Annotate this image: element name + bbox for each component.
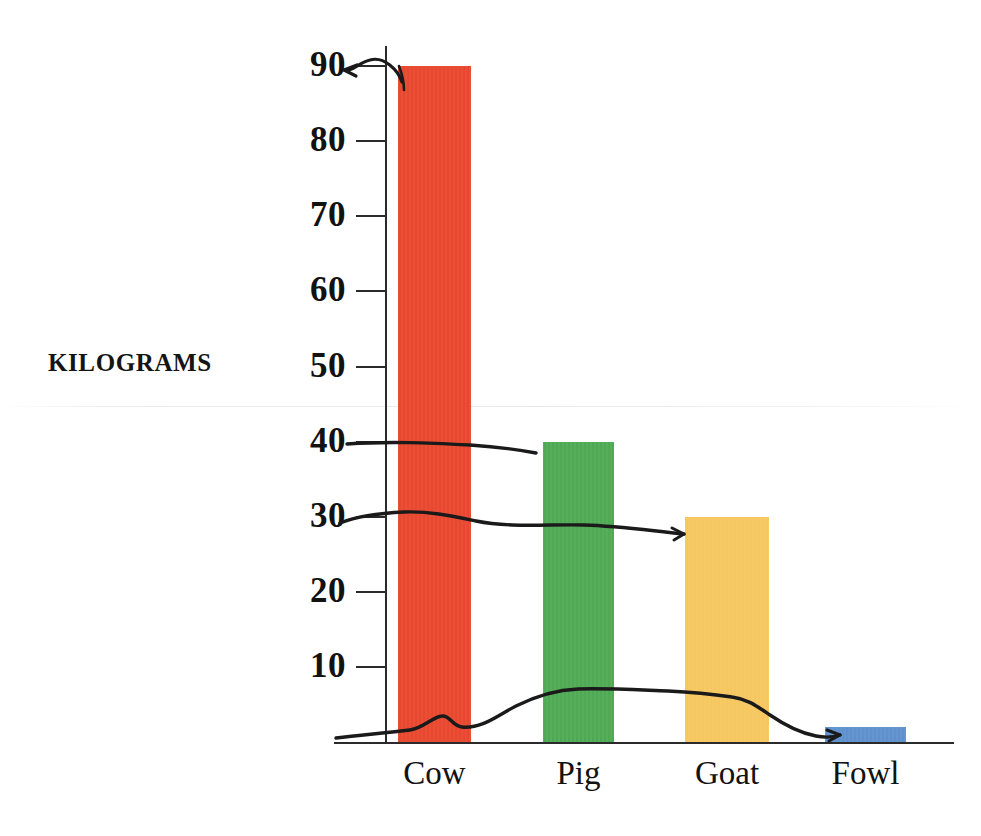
y-axis-tick <box>356 516 385 518</box>
goat-level-arrowhead <box>672 528 684 540</box>
y-axis-tick-label-text: 30 <box>276 498 346 533</box>
y-axis-tick <box>356 215 385 217</box>
y-axis-tick <box>356 591 385 593</box>
y-axis-tick <box>356 65 385 67</box>
y-axis-tick-label: 40 <box>268 423 346 458</box>
y-axis-tick-label: 80 <box>268 122 346 157</box>
y-axis-tick-label-text: 80 <box>276 122 346 157</box>
bar-paper-texture <box>825 727 906 742</box>
category-label-pig: Pig <box>503 753 654 793</box>
y-axis-tick <box>356 366 385 368</box>
bar-paper-texture <box>685 517 769 742</box>
y-axis-tick <box>356 140 385 142</box>
hand-drawn-annotation-overlay <box>0 0 981 836</box>
cow-level-line <box>344 59 402 82</box>
goat-level-line <box>340 512 684 534</box>
y-axis-tick-label-text: 90 <box>276 47 346 82</box>
bar-cow <box>398 66 471 742</box>
y-axis-tick <box>356 290 385 292</box>
category-label-fowl: Fowl <box>785 753 946 793</box>
y-axis-tick <box>356 441 385 443</box>
x-axis-line <box>334 742 954 744</box>
y-axis-tick-label: 10 <box>268 648 346 683</box>
y-axis-tick-label-text: 60 <box>276 272 346 307</box>
bar-paper-texture <box>398 66 471 742</box>
category-label-cow: Cow <box>358 753 511 793</box>
bar-goat <box>685 517 769 742</box>
bar-chart: KILOGRAMS 102030405060708090 CowPigGoatF… <box>0 0 981 836</box>
y-axis-tick-label-text: 10 <box>276 648 346 683</box>
y-axis-tick-label: 20 <box>268 573 346 608</box>
scan-seam-artifact <box>0 406 981 407</box>
y-axis-tick-label-text: 70 <box>276 197 346 232</box>
bar-pig <box>543 442 614 742</box>
y-axis-line <box>385 46 387 744</box>
bar-fowl <box>825 727 906 742</box>
y-axis-tick-label: 70 <box>268 197 346 232</box>
bar-paper-texture <box>543 442 614 742</box>
y-axis-tick <box>356 666 385 668</box>
y-axis-tick-label: 30 <box>268 498 346 533</box>
y-axis-tick-label: 90 <box>268 47 346 82</box>
y-axis-tick-label-text: 50 <box>276 348 346 383</box>
y-axis-tick-label: 50 <box>268 348 346 383</box>
y-axis-tick-label-text: 40 <box>276 423 346 458</box>
y-axis-tick-label: 60 <box>268 272 346 307</box>
y-axis-tick-label-text: 20 <box>276 573 346 608</box>
y-axis-title: KILOGRAMS <box>48 349 212 377</box>
